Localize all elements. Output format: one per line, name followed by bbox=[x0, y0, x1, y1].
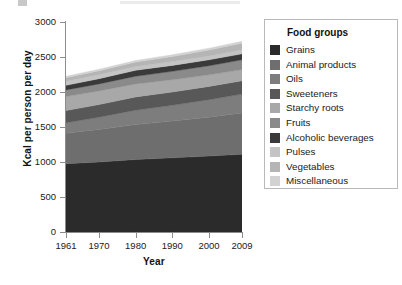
y-axis-title: Kcal per person per day bbox=[22, 19, 33, 199]
legend-item-label: Starchy roots bbox=[286, 101, 344, 114]
legend-item[interactable]: Starchy roots bbox=[270, 101, 396, 115]
scan-artifact-smudge bbox=[120, 1, 240, 4]
x-axis-tick-label: 1990 bbox=[152, 240, 192, 251]
x-axis-tick-label: 1970 bbox=[79, 240, 119, 251]
y-axis-tick bbox=[60, 92, 65, 93]
legend-swatch-icon bbox=[270, 176, 280, 186]
x-axis-tick bbox=[242, 233, 243, 238]
x-axis-tick bbox=[66, 233, 67, 238]
legend-swatch-icon bbox=[270, 74, 280, 84]
area-band bbox=[66, 154, 242, 232]
legend-swatch-icon bbox=[270, 133, 280, 143]
scan-artifact-mark bbox=[18, 0, 27, 6]
plot-area bbox=[66, 22, 242, 232]
legend-item[interactable]: Fruits bbox=[270, 116, 396, 130]
y-axis-tick bbox=[60, 197, 65, 198]
legend-item-label: Pulses bbox=[286, 145, 315, 158]
x-axis-title: Year bbox=[66, 256, 242, 267]
legend-item-label: Miscellaneous bbox=[286, 174, 348, 187]
legend-item-label: Fruits bbox=[286, 116, 311, 129]
legend-swatch-icon bbox=[270, 147, 280, 157]
x-axis-line bbox=[65, 232, 243, 233]
legend-swatch-icon bbox=[270, 118, 280, 128]
y-axis-tick-label: 0 bbox=[18, 227, 56, 236]
legend-swatch-icon bbox=[270, 103, 280, 113]
legend-title: Food groups bbox=[287, 27, 348, 38]
stacked-area-series-group bbox=[66, 22, 242, 232]
legend-item[interactable]: Pulses bbox=[270, 145, 396, 159]
legend-item-label: Vegetables bbox=[286, 160, 334, 173]
legend-item-label: Animal products bbox=[286, 58, 356, 71]
x-axis-tick-label: 2009 bbox=[222, 240, 262, 251]
x-axis-tick-label: 1980 bbox=[116, 240, 156, 251]
legend-item[interactable]: Alcoholic beverages bbox=[270, 131, 396, 145]
legend-item[interactable]: Animal products bbox=[270, 58, 396, 72]
legend-item-label: Grains bbox=[286, 43, 315, 56]
y-axis-tick bbox=[60, 127, 65, 128]
x-axis-tick bbox=[136, 233, 137, 238]
legend-swatch-icon bbox=[270, 162, 280, 172]
legend-item[interactable]: Oils bbox=[270, 72, 396, 86]
y-axis-tick bbox=[60, 162, 65, 163]
legend-item[interactable]: Sweeteners bbox=[270, 87, 396, 101]
legend-item-label: Sweeteners bbox=[286, 87, 338, 100]
x-axis-tick bbox=[99, 233, 100, 238]
x-axis-tick bbox=[172, 233, 173, 238]
stacked-area-chart-figure: 050010001500200025003000 Kcal per person… bbox=[0, 0, 402, 285]
legend-swatch-icon bbox=[270, 60, 280, 70]
legend-swatch-icon bbox=[270, 89, 280, 99]
y-axis-tick bbox=[60, 22, 65, 23]
legend-swatch-icon bbox=[270, 45, 280, 55]
legend-item[interactable]: Vegetables bbox=[270, 160, 396, 174]
legend-box: Food groups GrainsAnimal productsOilsSwe… bbox=[264, 19, 398, 189]
legend-item[interactable]: Miscellaneous bbox=[270, 174, 396, 188]
legend-item[interactable]: Grains bbox=[270, 43, 396, 57]
x-axis-tick bbox=[209, 233, 210, 238]
legend-item-label: Oils bbox=[286, 72, 303, 85]
y-axis-tick bbox=[60, 57, 65, 58]
legend-item-label: Alcoholic beverages bbox=[286, 131, 374, 144]
